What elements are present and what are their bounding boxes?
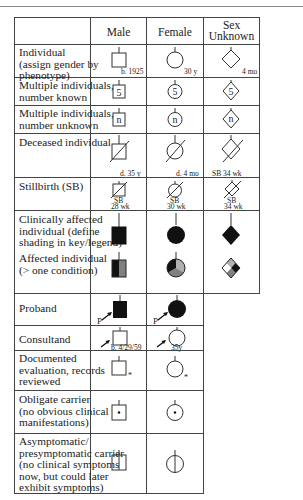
column-header-male: Male: [91, 27, 146, 38]
female-multi-condition-icon: [165, 252, 187, 288]
note-sb-weeks: 30 wk: [167, 203, 186, 210]
svg-text:*: *: [128, 371, 132, 380]
row-label-affected-multi: Affected individual (> one condition): [19, 253, 107, 276]
row-label-obligate-carrier: Obligate carrier (no obvious clinical ma…: [19, 394, 109, 429]
grid-line: [14, 293, 260, 294]
grid-line: [14, 325, 204, 326]
column-header-sex-unknown: Sex Unknown: [204, 20, 259, 42]
row-label-individual: Individual (assign gender by phenotype): [19, 47, 99, 82]
svg-text:5: 5: [173, 86, 178, 97]
svg-text:n: n: [117, 114, 122, 125]
female-asymptomatic-carrier-icon: [165, 450, 185, 478]
note-sb-weeks: 28 wk: [111, 203, 130, 210]
grid-line: [259, 17, 260, 294]
male-obligate-carrier-icon: [109, 400, 129, 426]
female-multiple-unknown-icon: n: [165, 108, 185, 132]
column-header-unknown-line2: Unknown: [204, 31, 259, 42]
note-sb-weeks: SB 34 wk: [212, 170, 242, 177]
row-label-clinically-affected: Clinically affected individual (define s…: [19, 214, 122, 249]
male-asymptomatic-carrier-icon: [109, 450, 129, 476]
svg-text:5: 5: [117, 87, 122, 98]
unknown-multiple-known-icon: 5: [220, 80, 242, 104]
note-age-months: 4 mo: [242, 68, 257, 75]
male-documented-icon: *: [109, 356, 135, 386]
row-label-proband: Proband: [19, 303, 57, 315]
note-birth-date: b. 4/29/59: [111, 344, 141, 351]
grid-line: [14, 17, 260, 18]
svg-text:P: P: [153, 316, 158, 326]
grid-line: [14, 44, 260, 45]
female-multiple-known-icon: 5: [165, 80, 185, 104]
note-age: 30 y: [184, 68, 197, 75]
grid-line: [203, 17, 204, 494]
row-label-stillbirth: Stillbirth (SB): [19, 181, 83, 193]
row-label-multiple-known: Multiple individuals, number known: [19, 80, 114, 103]
grid-line: [14, 390, 204, 391]
female-circle-icon: [165, 47, 185, 73]
note-birth-year: b. 1925: [121, 68, 144, 75]
unknown-deceased-icon: [218, 135, 246, 171]
male-multi-condition-icon: [109, 252, 129, 288]
note-death-age-months: d. 4 mo: [176, 170, 199, 177]
svg-text:n: n: [229, 113, 234, 124]
column-header-female: Female: [147, 27, 203, 38]
row-label-deceased: Deceased individual: [19, 137, 111, 149]
grid-line: [146, 17, 147, 494]
male-multiple-known-icon: 5: [109, 80, 129, 104]
male-deceased-icon: [109, 135, 131, 171]
row-label-multiple-unknown: Multiple individuals, number unknown: [19, 108, 114, 131]
grid-line: [14, 17, 15, 494]
unknown-multiple-unknown-icon: n: [220, 108, 242, 132]
unknown-affected-icon: [219, 213, 243, 249]
male-affected-icon: [109, 213, 129, 249]
female-proband-icon: P: [150, 295, 190, 325]
grid-line: [14, 133, 260, 134]
note-age: 35y: [171, 344, 182, 351]
note-sb-weeks: 34 wk: [224, 203, 243, 210]
svg-text:*: *: [184, 373, 188, 382]
female-deceased-icon: [165, 135, 187, 171]
male-multiple-unknown-icon: n: [109, 108, 129, 132]
unknown-diamond-icon: [220, 47, 242, 73]
row-label-documented: Documented evaluation, records reviewed: [19, 353, 105, 388]
male-proband-icon: P: [94, 295, 134, 325]
note-death-age: d. 35 y: [120, 170, 141, 177]
grid-line: [14, 433, 204, 434]
female-affected-icon: [165, 213, 187, 249]
female-obligate-carrier-icon: [165, 400, 185, 426]
female-documented-icon: *: [165, 356, 191, 386]
grid-line: [14, 105, 260, 106]
svg-text:P: P: [97, 316, 102, 326]
unknown-multi-condition-icon: [219, 252, 243, 288]
row-label-consultand: Consultand: [19, 334, 70, 346]
svg-text:n: n: [173, 114, 178, 125]
svg-text:5: 5: [229, 86, 234, 97]
